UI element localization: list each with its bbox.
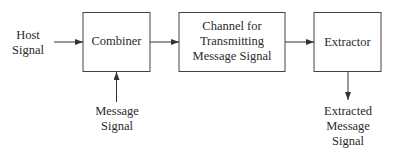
channel-line-3: Message Signal (179, 49, 285, 64)
channel-label: Channel for Transmitting Message Signal (179, 19, 285, 64)
extractor-label: Extractor (314, 35, 381, 50)
channel-line-1: Channel for (179, 19, 285, 34)
extractor-text: Extractor (314, 35, 381, 50)
extracted-message-signal-label: Extracted Message Signal (316, 104, 380, 149)
channel-line-2: Transmitting (179, 34, 285, 49)
host-signal-line-1: Host (4, 28, 52, 43)
message-signal-line-2: Signal (86, 119, 148, 134)
extracted-line-3: Signal (316, 134, 380, 149)
combiner-text: Combiner (83, 34, 150, 49)
extracted-line-2: Message (316, 119, 380, 134)
host-signal-line-2: Signal (4, 43, 52, 58)
combiner-label: Combiner (83, 34, 150, 49)
message-signal-line-1: Message (86, 104, 148, 119)
extracted-line-1: Extracted (316, 104, 380, 119)
host-signal-label: Host Signal (4, 28, 52, 58)
message-signal-label: Message Signal (86, 104, 148, 134)
